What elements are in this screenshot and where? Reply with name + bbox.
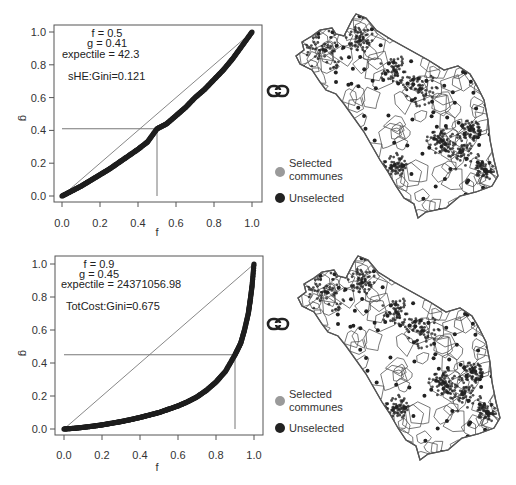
commune-unselected <box>489 161 492 164</box>
commune-unselected <box>362 36 365 39</box>
commune-unselected <box>461 379 464 382</box>
commune-unselected <box>465 386 468 389</box>
commune-unselected <box>358 326 362 330</box>
commune-unselected <box>439 133 442 136</box>
commune-unselected <box>354 26 357 29</box>
link-icon[interactable] <box>268 319 288 329</box>
y-tick-label: 0.8 <box>31 59 46 71</box>
commune-unselected <box>409 59 413 63</box>
link-icon[interactable] <box>268 86 288 96</box>
commune-unselected <box>475 121 478 124</box>
commune-unselected <box>350 47 353 50</box>
commune-unselected <box>406 257 410 261</box>
commune-unselected <box>329 119 333 123</box>
commune-boundary <box>347 375 361 391</box>
commune-boundary <box>395 202 407 216</box>
commune-unselected <box>327 291 330 294</box>
commune-unselected <box>434 379 438 383</box>
commune-unselected <box>313 267 317 271</box>
commune-unselected <box>433 352 437 356</box>
commune-unselected <box>333 292 336 295</box>
commune-unselected <box>321 45 324 48</box>
commune-boundary <box>399 452 410 464</box>
commune-unselected <box>414 97 417 100</box>
commune-unselected <box>380 410 384 414</box>
commune-unselected <box>335 138 339 142</box>
commune-unselected <box>337 286 341 290</box>
commune-unselected <box>321 258 325 262</box>
commune-unselected <box>475 211 479 215</box>
commune-unselected <box>318 55 321 58</box>
commune-unselected <box>373 274 376 277</box>
commune-unselected <box>375 18 379 22</box>
commune-unselected <box>470 263 474 267</box>
region-map[interactable] <box>294 246 511 469</box>
commune-unselected <box>473 208 477 212</box>
commune-unselected <box>475 65 479 69</box>
x-axis-label: f <box>155 461 159 473</box>
commune-unselected <box>423 439 427 443</box>
commune-unselected <box>373 321 377 325</box>
commune-unselected <box>491 413 494 416</box>
commune-boundary <box>368 171 383 185</box>
commune-unselected <box>394 322 397 325</box>
commune-unselected <box>476 349 480 353</box>
commune-unselected <box>396 65 399 68</box>
annotation-expectile: expectile = 42.3 <box>62 48 139 60</box>
commune-unselected <box>311 77 315 81</box>
commune-unselected <box>354 44 357 47</box>
commune-unselected <box>405 82 409 86</box>
commune-unselected <box>432 137 436 141</box>
commune-unselected <box>407 385 411 389</box>
commune-unselected <box>435 147 438 150</box>
commune-boundary <box>483 304 502 326</box>
commune-boundary <box>483 191 504 212</box>
commune-boundary <box>320 335 335 356</box>
commune-unselected <box>400 401 403 404</box>
commune-unselected <box>456 385 459 388</box>
commune-unselected <box>405 143 409 147</box>
commune-unselected <box>451 90 455 94</box>
commune-unselected <box>499 362 503 366</box>
commune-unselected <box>433 321 436 324</box>
commune-unselected <box>403 318 406 321</box>
commune-unselected <box>349 297 353 301</box>
commune-unselected <box>356 191 360 195</box>
commune-unselected <box>391 214 395 218</box>
commune-unselected <box>462 132 466 136</box>
commune-unselected <box>470 293 474 297</box>
commune-unselected <box>333 61 336 64</box>
commune-boundary <box>478 282 494 298</box>
commune-unselected <box>431 131 434 134</box>
commune-boundary <box>494 291 511 307</box>
y-axis-label: g <box>18 350 30 356</box>
x-tick-label: 0.6 <box>168 217 183 229</box>
commune-boundary <box>392 18 404 31</box>
commune-unselected <box>459 149 462 152</box>
commune-unselected <box>392 141 396 145</box>
commune-unselected <box>461 401 464 404</box>
commune-unselected <box>317 278 320 281</box>
commune-boundary <box>494 144 503 156</box>
commune-unselected <box>388 311 391 314</box>
commune-boundary <box>331 142 346 153</box>
commune-unselected <box>350 142 354 146</box>
commune-unselected <box>303 262 307 266</box>
commune-unselected <box>437 141 440 144</box>
commune-boundary <box>348 181 367 201</box>
commune-boundary <box>330 387 346 400</box>
commune-unselected <box>425 337 428 340</box>
commune-unselected <box>437 328 440 331</box>
commune-unselected <box>327 303 330 306</box>
commune-boundary <box>389 11 402 23</box>
commune-unselected <box>497 120 501 124</box>
commune-unselected <box>466 406 469 409</box>
commune-unselected <box>320 297 323 300</box>
commune-unselected <box>466 125 469 128</box>
commune-unselected <box>383 160 386 163</box>
commune-unselected <box>483 403 486 406</box>
commune-unselected <box>356 84 360 88</box>
commune-unselected <box>341 257 345 261</box>
commune-unselected <box>359 36 362 39</box>
commune-unselected <box>468 367 471 370</box>
